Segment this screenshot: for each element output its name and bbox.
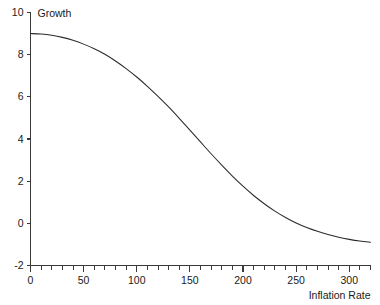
x-tick-label: 50	[78, 274, 90, 286]
x-tick-label: 250	[287, 274, 305, 286]
y-tick-label: -2	[14, 259, 23, 271]
y-axis-title: Growth	[38, 7, 72, 19]
chart-canvas: -20246810 050100150200250300 Growth Infl…	[0, 0, 380, 305]
x-tick-label: 200	[234, 274, 252, 286]
x-tick-label: 0	[28, 274, 34, 286]
x-tick-label: 150	[181, 274, 199, 286]
growth-inflation-chart: -20246810 050100150200250300 Growth Infl…	[0, 0, 380, 305]
chart-background	[0, 0, 380, 305]
y-tick-label: 2	[18, 175, 24, 187]
y-tick-label: 4	[18, 133, 24, 145]
x-axis-title: Inflation Rate	[309, 289, 371, 301]
x-tick-label: 300	[340, 274, 358, 286]
y-tick-label: 0	[18, 217, 24, 229]
y-tick-label: 8	[18, 48, 24, 60]
y-tick-label: 10	[12, 6, 24, 18]
x-tick-label: 100	[128, 274, 146, 286]
y-tick-label: 6	[18, 90, 24, 102]
